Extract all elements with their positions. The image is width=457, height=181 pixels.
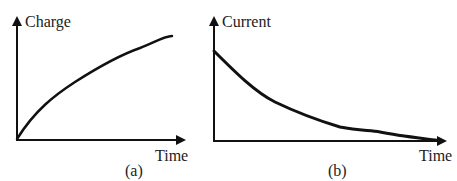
panel-a-charge-curve <box>17 36 172 139</box>
panel-b-chart <box>213 18 445 141</box>
panel-a-xlabel: Time <box>155 148 188 164</box>
panel-b-current-curve <box>214 51 442 141</box>
panel-a-chart <box>16 18 184 140</box>
panel-b-ylabel: Current <box>222 14 271 30</box>
panel-a-ylabel: Charge <box>25 14 71 30</box>
panel-b-xlabel: Time <box>419 148 452 164</box>
panel-a-caption: (a) <box>125 163 143 179</box>
panel-b-caption: (b) <box>328 163 347 179</box>
